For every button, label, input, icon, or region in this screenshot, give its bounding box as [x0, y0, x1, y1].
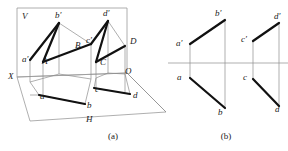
pictorial-label-ap: a′	[22, 54, 30, 64]
segment-ab-hproj	[39, 95, 85, 104]
part-b-orthographic-projection: a′b′c′d′abcd	[168, 8, 288, 117]
segment-cd-hproj	[94, 88, 130, 94]
pictorial-label-bp: b′	[55, 10, 63, 20]
segment-c-d	[253, 79, 279, 106]
projector-a-floor	[30, 82, 39, 95]
segment-cp-dp	[253, 23, 279, 41]
pictorial-label-H: H	[85, 114, 93, 124]
projector-dp-D	[108, 21, 125, 46]
descriptive-geometry-figure: VHXOa′b′c′d′ABCDabcda′b′c′d′abcd(a)(b)	[0, 0, 288, 151]
orthographic-label-b: b	[218, 107, 223, 117]
orthographic-label-ap: a′	[176, 38, 184, 48]
projection-planes	[17, 8, 166, 121]
figure-container: VHXOa′b′c′d′ABCDabcda′b′c′d′abcd(a)(b)	[0, 0, 288, 151]
pictorial-label-b: b	[87, 100, 92, 110]
segment-ap-bp-vproj	[30, 23, 59, 60]
pictorial-point-labels: VHXOa′b′c′d′ABCDabcd	[7, 8, 138, 124]
caption-b: (b)	[221, 131, 232, 141]
orthographic-label-dp: d′	[274, 11, 282, 21]
pictorial-label-A: A	[41, 56, 48, 66]
figure-captions: (a)(b)	[108, 131, 231, 141]
v-plane-outline	[17, 8, 127, 77]
orthographic-label-cp: c′	[241, 34, 248, 44]
pictorial-label-X: X	[7, 71, 14, 81]
orthographic-label-a: a	[177, 72, 182, 82]
orthographic-line-segments	[190, 20, 279, 108]
orthographic-label-bp: b′	[215, 8, 223, 18]
segment-a-b	[190, 78, 225, 108]
pictorial-label-cp: c′	[86, 35, 93, 45]
orthographic-label-c: c	[243, 72, 247, 82]
pictorial-label-a: a	[40, 91, 45, 101]
pictorial-label-d: d	[133, 90, 138, 100]
part-a-pictorial-projection: VHXOa′b′c′d′ABCDabcd	[7, 8, 166, 124]
pictorial-label-C: C	[100, 57, 107, 67]
pictorial-label-V: V	[22, 11, 29, 21]
pictorial-label-dp: d′	[103, 8, 111, 18]
orthographic-label-d: d	[275, 104, 280, 114]
pictorial-label-B: B	[75, 40, 81, 50]
pictorial-label-c: c	[95, 84, 99, 94]
pictorial-label-O: O	[125, 66, 132, 76]
pictorial-label-D: D	[129, 36, 137, 46]
orthographic-point-labels: a′b′c′d′abcd	[176, 8, 282, 117]
projector-quad-a	[30, 74, 59, 82]
projector-d-floor	[125, 74, 130, 94]
caption-a: (a)	[108, 131, 118, 141]
segment-ap-bp	[190, 20, 225, 44]
